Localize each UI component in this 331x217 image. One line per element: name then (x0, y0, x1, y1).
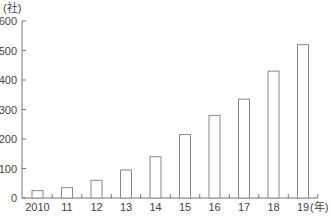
x-axis-unit-label: (年) (310, 200, 328, 213)
x-tick-label: 15 (179, 201, 191, 213)
y-tick-label: 500 (0, 45, 17, 57)
bar-17 (239, 99, 250, 198)
x-tick-label: 2010 (25, 201, 49, 213)
x-tick-label: 11 (61, 201, 72, 213)
x-tick-label: 12 (90, 201, 102, 213)
y-axis: 0100200300400500600 (0, 15, 26, 204)
y-tick-label: 0 (11, 192, 17, 204)
bar-chart: (社) 0100200300400500600 2010111213141516… (0, 0, 331, 217)
x-tick-label: 14 (149, 201, 161, 213)
bar-13 (121, 170, 132, 198)
bar-16 (209, 115, 220, 198)
bar-18 (268, 71, 279, 198)
y-tick-label: 200 (0, 133, 17, 145)
y-tick-label: 600 (0, 15, 17, 27)
y-tick-label: 400 (0, 74, 17, 86)
y-axis-unit-label: (社) (3, 1, 21, 14)
x-tick-label: 16 (208, 201, 220, 213)
x-tick-labels: 2010111213141516171819 (25, 201, 309, 213)
bar-14 (150, 157, 161, 198)
y-tick-label: 300 (0, 104, 17, 116)
bar-15 (180, 135, 191, 198)
bars (32, 45, 309, 198)
x-tick-label: 18 (267, 201, 279, 213)
y-tick-label: 100 (0, 163, 17, 175)
bar-11 (62, 188, 73, 198)
bar-19 (298, 45, 309, 198)
bar-2010 (32, 191, 43, 198)
x-tick-label: 17 (238, 201, 250, 213)
x-tick-label: 13 (120, 201, 132, 213)
x-tick-label: 19 (297, 201, 309, 213)
bar-12 (91, 180, 102, 198)
